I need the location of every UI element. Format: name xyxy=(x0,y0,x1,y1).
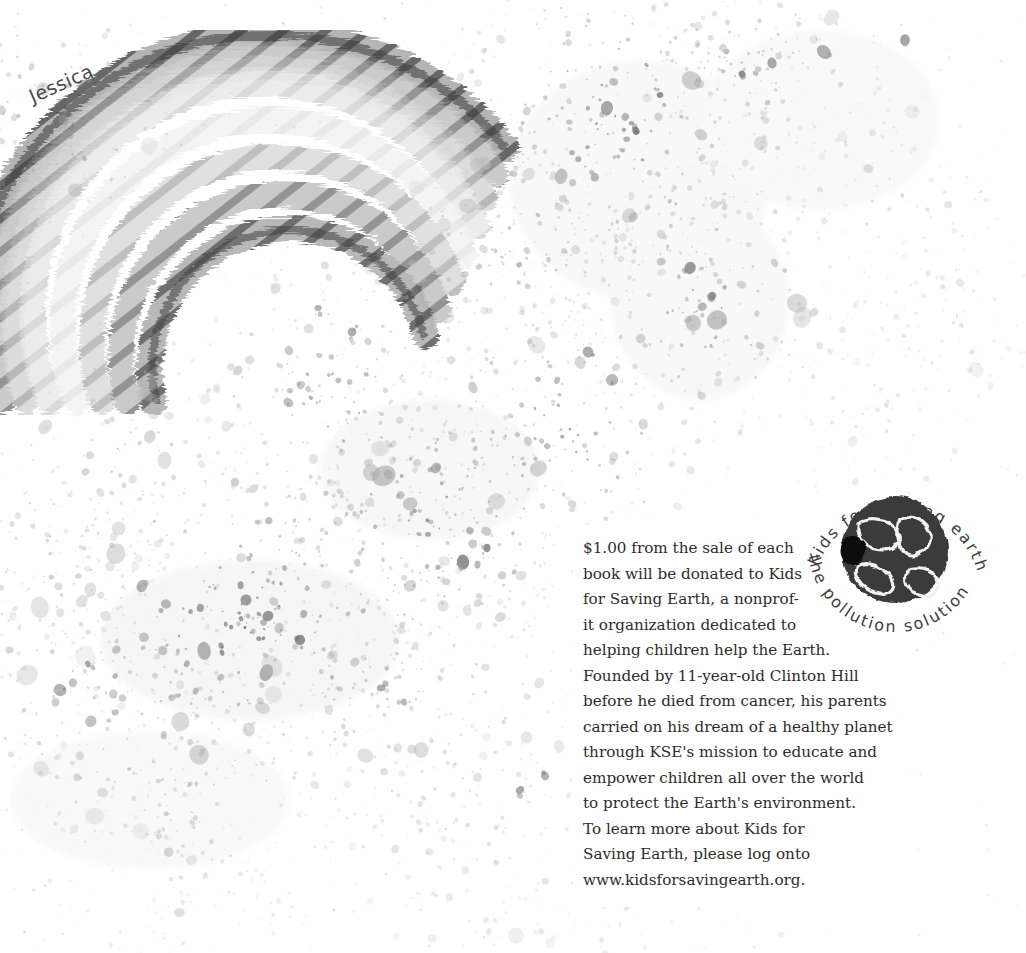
donation-line: through KSE's mission to educate and xyxy=(583,740,873,766)
donation-line: to protect the Earth's environment. xyxy=(583,791,873,817)
rainbow-arc-artwork xyxy=(0,30,540,430)
donation-line: Saving Earth, please log onto xyxy=(583,842,873,868)
donation-line: To learn more about Kids for xyxy=(583,817,873,843)
book-page: Jessica $1.00 from the sale of each book… xyxy=(0,0,1026,953)
donation-line: Founded by 11-year-old Clinton Hill xyxy=(583,664,873,690)
donation-line: empower children all over the world xyxy=(583,766,873,792)
kse-logo: Kids for SAVing earth the pollution solu… xyxy=(796,462,996,647)
donation-website[interactable]: www.kidsforsavingearth.org. xyxy=(583,868,873,894)
donation-line: before he died from cancer, his parents xyxy=(583,689,873,715)
donation-line: carried on his dream of a healthy planet xyxy=(583,715,873,741)
